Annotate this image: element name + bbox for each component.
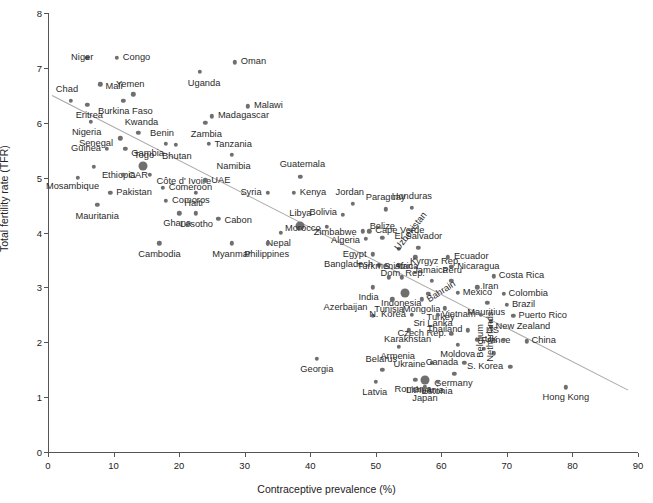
- data-point[interactable]: [95, 203, 99, 207]
- data-point[interactable]: [98, 82, 102, 86]
- data-point[interactable]: [203, 121, 207, 125]
- data-point[interactable]: [383, 207, 387, 211]
- point-label: El Salvador: [395, 232, 443, 241]
- data-point[interactable]: [157, 241, 161, 245]
- data-point[interactable]: [420, 375, 429, 384]
- data-point[interactable]: [360, 229, 364, 233]
- data-point[interactable]: [118, 136, 122, 140]
- data-point[interactable]: [465, 328, 469, 332]
- data-point[interactable]: [147, 173, 151, 177]
- data-point[interactable]: [511, 314, 515, 318]
- point-label: Pakistan: [116, 188, 152, 197]
- point-label: Comoros: [172, 196, 210, 205]
- data-point[interactable]: [131, 92, 135, 96]
- data-point[interactable]: [88, 119, 92, 123]
- y-tick: [44, 397, 48, 398]
- point-label: Costa Rica: [499, 272, 544, 281]
- point-label: Benin: [150, 129, 174, 138]
- data-point[interactable]: [370, 252, 374, 256]
- point-label: Togo: [134, 151, 154, 160]
- point-label: Canada: [426, 358, 459, 367]
- data-point[interactable]: [462, 361, 466, 365]
- data-point[interactable]: [505, 303, 509, 307]
- data-point[interactable]: [115, 56, 119, 60]
- point-label: Georgia: [300, 365, 333, 374]
- data-point[interactable]: [164, 198, 168, 202]
- data-point[interactable]: [193, 211, 197, 215]
- data-point[interactable]: [456, 291, 460, 295]
- data-point[interactable]: [92, 164, 96, 168]
- data-point[interactable]: [410, 206, 414, 210]
- x-tick-label: 90: [633, 460, 644, 471]
- data-point[interactable]: [416, 246, 420, 250]
- data-point[interactable]: [380, 236, 384, 240]
- data-point[interactable]: [164, 141, 168, 145]
- data-point[interactable]: [449, 332, 453, 336]
- data-point[interactable]: [351, 202, 355, 206]
- data-point[interactable]: [108, 191, 112, 195]
- data-point[interactable]: [177, 211, 181, 215]
- point-label: Netherlands: [486, 312, 495, 362]
- data-point[interactable]: [229, 152, 233, 156]
- data-point[interactable]: [123, 147, 127, 151]
- data-point[interactable]: [246, 104, 250, 108]
- point-label: Azerbaijan: [324, 303, 368, 312]
- data-point[interactable]: [419, 297, 423, 301]
- data-point[interactable]: [315, 357, 319, 361]
- data-point[interactable]: [374, 380, 378, 384]
- point-label: Vietnam: [442, 310, 476, 319]
- data-point[interactable]: [564, 385, 568, 389]
- data-point[interactable]: [364, 237, 368, 241]
- data-point[interactable]: [501, 292, 505, 296]
- data-point[interactable]: [139, 161, 148, 170]
- point-label: Mexico: [463, 288, 492, 297]
- data-point[interactable]: [429, 279, 433, 283]
- point-label: Czech Rep.: [398, 329, 447, 338]
- point-label: Yemen: [116, 81, 145, 90]
- data-point[interactable]: [210, 114, 214, 118]
- data-point[interactable]: [279, 230, 283, 234]
- point-label: UAE: [211, 177, 230, 186]
- x-tick: [572, 453, 573, 457]
- point-label: Syria: [240, 188, 261, 197]
- data-point[interactable]: [75, 175, 79, 179]
- data-point[interactable]: [485, 301, 489, 305]
- data-point[interactable]: [452, 372, 456, 376]
- point-label: Nicaragua: [457, 262, 499, 271]
- data-point[interactable]: [121, 99, 125, 103]
- data-point[interactable]: [524, 339, 528, 343]
- data-point[interactable]: [136, 130, 140, 134]
- data-point[interactable]: [492, 274, 496, 278]
- data-point[interactable]: [292, 191, 296, 195]
- x-tick: [179, 453, 180, 457]
- data-point[interactable]: [298, 174, 302, 178]
- data-point[interactable]: [69, 99, 73, 103]
- x-tick-label: 30: [239, 460, 250, 471]
- data-point[interactable]: [508, 365, 512, 369]
- y-tick-label: 5: [24, 172, 42, 183]
- data-point[interactable]: [397, 344, 401, 348]
- data-point[interactable]: [229, 241, 233, 245]
- data-point[interactable]: [85, 102, 89, 106]
- data-point[interactable]: [105, 147, 109, 151]
- data-point[interactable]: [380, 367, 384, 371]
- data-point[interactable]: [401, 288, 410, 297]
- data-point[interactable]: [341, 213, 345, 217]
- y-tick-label: 3: [24, 282, 42, 293]
- data-point[interactable]: [206, 141, 210, 145]
- point-label: Guatemala: [280, 160, 325, 169]
- data-point[interactable]: [161, 185, 165, 189]
- data-point[interactable]: [174, 142, 178, 146]
- y-tick-label: 1: [24, 392, 42, 403]
- data-point[interactable]: [216, 217, 220, 221]
- point-label: Colombia: [509, 289, 548, 298]
- point-label: Congo: [123, 53, 150, 62]
- data-point[interactable]: [410, 313, 414, 317]
- data-point[interactable]: [413, 377, 417, 381]
- data-point[interactable]: [265, 191, 269, 195]
- point-label: China: [532, 336, 556, 345]
- data-point[interactable]: [370, 285, 374, 289]
- data-point[interactable]: [233, 60, 237, 64]
- data-point[interactable]: [456, 343, 460, 347]
- data-point[interactable]: [198, 70, 202, 74]
